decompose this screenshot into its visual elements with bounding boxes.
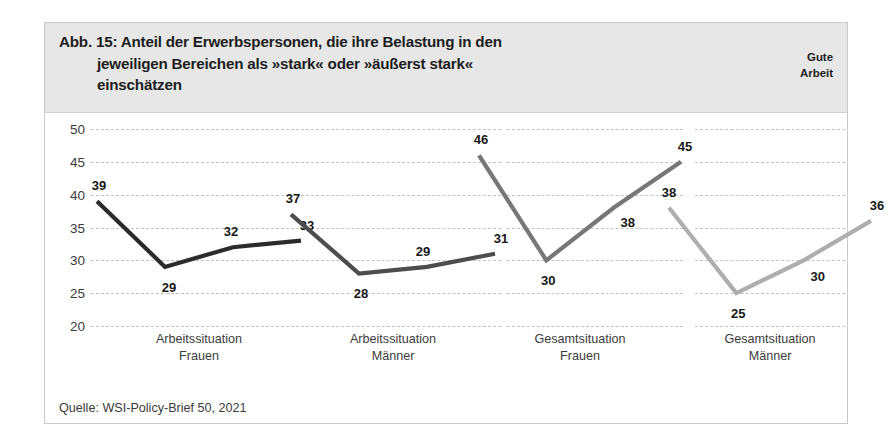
- data-point-label: 30: [541, 273, 555, 288]
- series-line-svg: [285, 113, 501, 343]
- data-point-label: 29: [162, 279, 176, 294]
- x-axis-category-label: GesamtsituationMänner: [663, 331, 877, 365]
- brand-logo: Gute Arbeit: [713, 49, 833, 81]
- series-panel: 46303845GesamtsituationFrauen: [473, 113, 687, 343]
- x-axis-category-label: GesamtsituationFrauen: [473, 331, 687, 365]
- y-axis-tick-label: 45: [51, 154, 85, 169]
- data-point-label: 39: [92, 178, 106, 193]
- data-point-label: 38: [662, 184, 676, 199]
- y-axis-tick-label: 50: [51, 122, 85, 137]
- y-axis-tick-label: 25: [51, 286, 85, 301]
- y-axis-tick-label: 30: [51, 253, 85, 268]
- x-axis-label-line-2: Frauen: [473, 348, 687, 365]
- plot-area: 50454035302520 39293233ArbeitssituationF…: [45, 113, 847, 424]
- brand-line-1: Gute: [713, 49, 833, 65]
- x-axis-label-line-1: Arbeitssituation: [156, 332, 242, 346]
- x-axis-label-line-2: Männer: [285, 348, 501, 365]
- data-point-label: 46: [474, 132, 488, 147]
- x-axis-label-line-1: Gesamtsituation: [725, 332, 816, 346]
- figure-container: Abb. 15: Anteil der Erwerbspersonen, die…: [44, 22, 848, 424]
- figure-title-line-2: jeweiligen Bereichen als »stark« oder »ä…: [59, 53, 689, 75]
- series-line: [291, 214, 495, 273]
- x-axis-label-line-2: Männer: [663, 348, 877, 365]
- x-axis-category-label: ArbeitssituationMänner: [285, 331, 501, 365]
- series-line: [669, 208, 871, 293]
- brand-line-2: Arbeit: [713, 65, 833, 81]
- series-line-svg: [663, 113, 877, 343]
- data-point-label: 38: [620, 214, 634, 229]
- figure-title: Abb. 15: Anteil der Erwerbspersonen, die…: [59, 31, 689, 96]
- figure-header: Abb. 15: Anteil der Erwerbspersonen, die…: [45, 23, 847, 113]
- data-point-label: 36: [870, 197, 884, 212]
- y-axis-tick-label: 20: [51, 319, 85, 334]
- y-axis-tick-label: 40: [51, 187, 85, 202]
- data-point-label: 25: [731, 306, 745, 321]
- data-point-label: 30: [810, 269, 824, 284]
- y-axis-tick-label: 35: [51, 220, 85, 235]
- series-panel: 39293233ArbeitssituationFrauen: [91, 113, 307, 343]
- data-point-label: 32: [224, 224, 238, 239]
- series-panel: 37282931ArbeitssituationMänner: [285, 113, 501, 343]
- series-line-svg: [91, 113, 307, 343]
- x-axis-label-line-1: Gesamtsituation: [535, 332, 626, 346]
- data-point-label: 28: [354, 286, 368, 301]
- data-point-label: 37: [286, 191, 300, 206]
- series-panel: 38253036GesamtsituationMänner: [663, 113, 877, 343]
- x-axis-label-line-1: Arbeitssituation: [350, 332, 436, 346]
- figure-title-line-3: einschätzen: [59, 74, 689, 96]
- figure-title-line-1: Abb. 15: Anteil der Erwerbspersonen, die…: [59, 31, 689, 53]
- data-point-label: 29: [416, 243, 430, 258]
- series-line-svg: [473, 113, 687, 343]
- x-axis-label-line-2: Frauen: [91, 348, 307, 365]
- source-note: Quelle: WSI-Policy-Brief 50, 2021: [59, 401, 247, 415]
- series-line: [97, 201, 301, 267]
- series-line: [479, 155, 681, 260]
- x-axis-category-label: ArbeitssituationFrauen: [91, 331, 307, 365]
